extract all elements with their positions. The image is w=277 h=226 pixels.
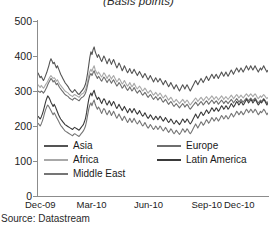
legend-row: Middle East <box>44 168 259 182</box>
series-line-asia <box>38 47 268 95</box>
x-tick-label: Dec-10 <box>224 199 255 210</box>
x-tick-label: Jun-10 <box>134 199 163 210</box>
legend-swatch-icon <box>44 159 68 161</box>
legend-label: Africa <box>73 154 99 165</box>
legend-swatch-icon <box>157 145 181 147</box>
y-tick-label: 400 <box>2 51 32 61</box>
legend-label: Latin America <box>186 154 247 165</box>
legend-swatch-icon <box>157 159 181 161</box>
y-tick-label: 100 <box>2 156 32 166</box>
x-tick-label: Sep-10 <box>192 199 223 210</box>
y-tick-label: 300 <box>2 86 32 96</box>
legend-row: AsiaEurope <box>44 140 259 154</box>
chart-title: (Basis points) <box>0 0 277 7</box>
legend-row: AfricaLatin America <box>44 154 259 168</box>
y-tick-label: 200 <box>2 121 32 131</box>
legend-item-africa: Africa <box>44 154 99 165</box>
legend-swatch-icon <box>44 145 68 147</box>
legend-item-middle-east: Middle East <box>44 168 125 179</box>
legend-swatch-icon <box>44 173 68 175</box>
legend-label: Europe <box>186 140 218 151</box>
x-tick-label: Mar-10 <box>77 199 107 210</box>
x-tick-label: Dec-09 <box>25 199 56 210</box>
chart-figure: (Basis points) 0100200300400500 Dec-09Ma… <box>0 0 277 226</box>
legend-label: Middle East <box>73 168 125 179</box>
source-note: Source: Datastream <box>1 213 90 224</box>
x-axis-line <box>37 196 269 197</box>
legend-item-latin-america: Latin America <box>157 154 247 165</box>
y-tick-label: 500 <box>2 16 32 26</box>
chart-legend: AsiaEuropeAfricaLatin AmericaMiddle East <box>44 140 259 182</box>
legend-label: Asia <box>73 140 92 151</box>
series-line-europe <box>38 71 268 110</box>
legend-item-asia: Asia <box>44 140 92 151</box>
y-tick <box>33 196 38 197</box>
legend-item-europe: Europe <box>157 140 218 151</box>
